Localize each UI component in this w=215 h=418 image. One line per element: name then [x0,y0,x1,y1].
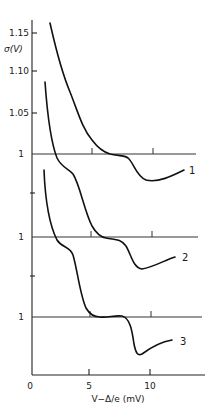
curve-label-1: 1 [189,165,195,176]
x-axis-label: V−Δ/e (mV) [91,394,144,404]
x-tick-0: 0 [27,381,33,391]
x-ticks [89,369,150,375]
y-tick-baseline-3: 1 [18,312,24,322]
x-tick-10: 10 [144,381,156,391]
curve-label-2: 2 [182,252,188,263]
y-tick-1-15: 1.15 [9,28,29,38]
baseline-ticks [90,148,153,317]
x-tick-5: 5 [86,381,92,391]
y-tick-1-10: 1.10 [9,66,29,76]
curve-label-3: 3 [180,336,186,347]
y-tick-baseline-1: 1 [18,149,24,159]
curve-1 [50,23,184,181]
curve-2 [45,82,175,269]
y-tick-1-05: 1.05 [9,108,29,118]
curve-3 [44,170,172,355]
conductance-chart: 1.15 σ(V) 1.10 1.05 1 1 1 0 5 10 V−Δ/e (… [0,0,215,418]
y-tick-baseline-2: 1 [18,232,24,242]
y-axis-label: σ(V) [4,44,23,54]
